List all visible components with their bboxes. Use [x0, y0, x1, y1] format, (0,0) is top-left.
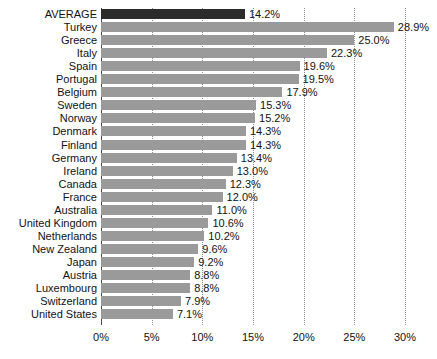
bar: [101, 126, 246, 136]
bar-row: Finland14.3%: [101, 139, 405, 152]
category-label: Turkey: [0, 21, 97, 33]
bar-row: Belgium17.9%: [101, 86, 405, 99]
value-label: 8.8%: [194, 282, 219, 294]
bar: [101, 153, 237, 163]
bar-row: Italy22.3%: [101, 47, 405, 60]
bar: [101, 100, 256, 110]
category-label: Germany: [0, 152, 97, 164]
value-label: 11.0%: [216, 204, 246, 216]
bar-row: Switzerland7.9%: [101, 295, 405, 308]
bar-row: Canada12.3%: [101, 178, 405, 191]
bar: [101, 309, 173, 319]
x-axis-tick-labels: 0%5%10%15%20%25%30%: [0, 331, 437, 351]
value-label: 28.9%: [398, 21, 429, 33]
bar-row: Turkey28.9%: [101, 21, 405, 34]
bar: [101, 35, 354, 45]
value-label: 8.8%: [194, 269, 219, 281]
value-label: 10.6%: [212, 217, 243, 229]
value-label: 9.2%: [198, 256, 223, 268]
category-label: Switzerland: [0, 295, 97, 307]
bar: [101, 166, 233, 176]
category-label: Japan: [0, 256, 97, 268]
bar: [101, 113, 255, 123]
bar-row: Germany13.4%: [101, 152, 405, 165]
bar: [101, 205, 212, 215]
bar: [101, 87, 282, 97]
value-label: 14.2%: [249, 8, 280, 20]
bar-row: AVERAGE14.2%: [101, 8, 405, 21]
category-label: AVERAGE: [0, 8, 97, 20]
category-label: New Zealand: [0, 243, 97, 255]
category-label: Denmark: [0, 125, 97, 137]
category-label: Finland: [0, 139, 97, 151]
bar: [101, 61, 300, 71]
bar: [101, 296, 181, 306]
bar: [101, 22, 394, 32]
category-label: Belgium: [0, 86, 97, 98]
bar-row: Netherlands10.2%: [101, 230, 405, 243]
x-tick-label: 25%: [343, 331, 365, 344]
category-label: Austria: [0, 269, 97, 281]
bar-row: Spain19.6%: [101, 60, 405, 73]
category-label: United Kingdom: [0, 217, 97, 229]
bar-row: Ireland13.0%: [101, 165, 405, 178]
gridline-30: [405, 8, 407, 325]
value-label: 7.9%: [185, 295, 210, 307]
category-label: France: [0, 191, 97, 203]
value-label: 13.4%: [241, 152, 272, 164]
bar-highlight: [101, 9, 245, 19]
value-label: 15.3%: [260, 99, 291, 111]
value-label: 12.3%: [230, 178, 261, 190]
value-label: 22.3%: [331, 47, 362, 59]
bar: [101, 140, 246, 150]
category-label: Norway: [0, 112, 97, 124]
x-tick-label: 20%: [293, 331, 315, 344]
category-label: Sweden: [0, 99, 97, 111]
value-label: 10.2%: [208, 230, 239, 242]
bar-row: New Zealand9.6%: [101, 243, 405, 256]
x-tick-label: 30%: [394, 331, 416, 344]
category-label: Portugal: [0, 73, 97, 85]
bar: [101, 179, 226, 189]
bar-row: France12.0%: [101, 191, 405, 204]
category-label: Netherlands: [0, 230, 97, 242]
bar-chart: AVERAGE14.2%Turkey28.9%Greece25.0%Italy2…: [0, 0, 437, 359]
category-label: Ireland: [0, 165, 97, 177]
value-label: 14.3%: [250, 125, 281, 137]
bar-row: United Kingdom10.6%: [101, 217, 405, 230]
x-tick-label: 15%: [242, 331, 264, 344]
bar-row: Norway15.2%: [101, 112, 405, 125]
bar: [101, 48, 327, 58]
value-label: 19.5%: [303, 73, 334, 85]
bar-row: Luxembourg8.8%: [101, 282, 405, 295]
value-label: 12.0%: [227, 191, 258, 203]
category-label: Luxembourg: [0, 282, 97, 294]
bar-row: United States7.1%: [101, 308, 405, 321]
bar: [101, 218, 208, 228]
bar: [101, 257, 194, 267]
value-label: 7.1%: [177, 308, 202, 320]
bar: [101, 192, 223, 202]
bar-row: Australia11.0%: [101, 204, 405, 217]
bar-row: Denmark14.3%: [101, 125, 405, 138]
x-tick-label: 10%: [191, 331, 213, 344]
bar-row: Sweden15.3%: [101, 99, 405, 112]
value-label: 15.2%: [259, 112, 290, 124]
value-label: 13.0%: [237, 165, 268, 177]
bar: [101, 74, 299, 84]
x-tick-label: 5%: [144, 331, 160, 344]
value-label: 17.9%: [286, 86, 317, 98]
category-label: Canada: [0, 178, 97, 190]
bar-row: Greece25.0%: [101, 34, 405, 47]
plot-area: AVERAGE14.2%Turkey28.9%Greece25.0%Italy2…: [101, 8, 405, 325]
category-label: Spain: [0, 60, 97, 72]
value-label: 25.0%: [358, 34, 389, 46]
x-tick-label: 0%: [93, 331, 109, 344]
category-label: United States: [0, 308, 97, 320]
category-label: Greece: [0, 34, 97, 46]
value-label: 14.3%: [250, 139, 281, 151]
bar: [101, 283, 190, 293]
bar: [101, 244, 198, 254]
value-label: 19.6%: [304, 60, 335, 72]
bar-row: Portugal19.5%: [101, 73, 405, 86]
